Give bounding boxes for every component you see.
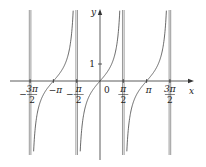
x-tick-denominator: 2 (29, 95, 35, 105)
x-tick-label: π (145, 85, 153, 95)
x-tick-numerator: 3π (26, 84, 39, 94)
tangent-graph: x y 0 −3π2−π−π2π2π3π2 1 (0, 0, 206, 167)
x-axis-arrow-icon (188, 79, 194, 83)
origin-label: 0 (104, 85, 110, 95)
x-tick-numerator: π (75, 84, 83, 94)
x-tick-label: −π (49, 85, 64, 95)
y-axis-arrow-icon (98, 9, 102, 15)
y-tick-label: 1 (89, 59, 95, 69)
x-tick-denominator: 2 (120, 95, 126, 105)
x-tick-sign: − (66, 89, 74, 99)
y-axis-label: y (90, 7, 97, 17)
x-tick-numerator: 3π (164, 84, 177, 94)
x-tick-denominator: 2 (76, 95, 82, 105)
x-tick-denominator: 2 (167, 95, 173, 105)
x-axis-label: x (189, 86, 194, 96)
x-tick-numerator: π (119, 84, 127, 94)
